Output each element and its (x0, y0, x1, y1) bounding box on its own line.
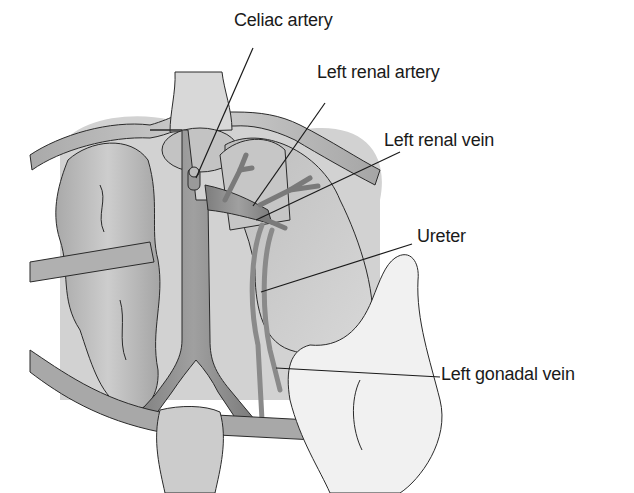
label-left-renal-vein: Left renal vein (384, 130, 494, 151)
label-left-gonadal-vein: Left gonadal vein (441, 364, 575, 385)
label-ureter: Ureter (417, 226, 466, 247)
label-left-renal-artery: Left renal artery (317, 62, 440, 83)
anatomy-diagram: Celiac artery Left renal artery Left ren… (0, 0, 634, 493)
label-celiac-artery: Celiac artery (234, 10, 332, 31)
